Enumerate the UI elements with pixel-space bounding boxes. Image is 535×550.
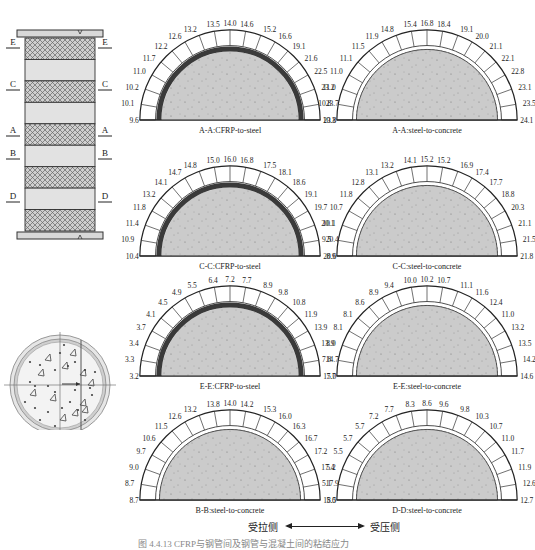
stress-value-label: 11.7 bbox=[511, 447, 524, 456]
stress-value-label: 11.9 bbox=[366, 32, 379, 41]
stress-value-label: 10.3 bbox=[323, 116, 336, 125]
stress-value-label: 16.8 bbox=[240, 156, 253, 165]
stress-value-label: 5.7 bbox=[355, 422, 365, 431]
stress-value-label: 17.7 bbox=[489, 178, 502, 187]
legend: 受拉侧 受压侧 bbox=[0, 518, 535, 534]
panel-title: A-A:CFRP-to-steel bbox=[199, 126, 262, 135]
stress-value-label: 14.0 bbox=[223, 399, 236, 408]
stress-value-label: 10.3 bbox=[476, 412, 489, 421]
stress-value-label: 3.4 bbox=[129, 339, 139, 348]
stress-value-label: 8.3 bbox=[405, 400, 415, 409]
stress-value-label: 11.1 bbox=[340, 54, 353, 63]
stress-value-label: 11.4 bbox=[126, 219, 139, 228]
stress-value-label: 8.7 bbox=[129, 496, 139, 505]
stress-value-label: 8.9 bbox=[263, 281, 273, 290]
stress-value-label: 13.5 bbox=[207, 20, 220, 29]
stress-value-label: 22.1 bbox=[501, 54, 514, 63]
stress-value-label: 14.1 bbox=[154, 178, 167, 187]
panel-BB-steel: 8.78.79.09.710.611.512.613.213.814.014.2… bbox=[125, 399, 339, 515]
stress-value-label: 12.6 bbox=[168, 32, 181, 41]
stress-value-label: 9.6 bbox=[129, 116, 139, 125]
stress-value-label: 18.8 bbox=[501, 190, 514, 199]
stress-value-label: 12.8 bbox=[351, 178, 364, 187]
stress-value-label: 22.8 bbox=[511, 67, 524, 76]
stress-value-label: 19.1 bbox=[304, 190, 317, 199]
panel-DD-steel: 5.05.15.25.55.75.77.27.78.38.69.69.810.3… bbox=[322, 399, 535, 515]
stress-value-label: 10.1 bbox=[121, 99, 134, 108]
panel-CC-steel: 8.99.510.110.711.812.813.113.214.115.215… bbox=[322, 155, 535, 271]
stress-value-label: 5.0 bbox=[326, 496, 336, 505]
stress-value-label: 11.8 bbox=[340, 190, 353, 199]
stress-value-label: 5.5 bbox=[187, 281, 197, 290]
stress-value-label: 10.7 bbox=[330, 203, 343, 212]
stress-value-label: 10.0 bbox=[404, 276, 417, 285]
stress-value-label: 9.8 bbox=[279, 288, 289, 297]
stress-value-label: 4.1 bbox=[146, 310, 156, 319]
stress-value-label: 13.1 bbox=[365, 168, 378, 177]
stress-value-label: 11.0 bbox=[323, 83, 336, 92]
stress-value-label: 9.4 bbox=[384, 281, 394, 290]
stress-value-label: 23.5 bbox=[523, 99, 535, 108]
stress-value-label: 16.0 bbox=[223, 155, 236, 164]
panel-title: D-D:steel-to-concrete bbox=[392, 506, 462, 515]
stress-value-label: 8.1 bbox=[333, 323, 343, 332]
stress-value-label: 15.2 bbox=[437, 156, 450, 165]
stress-value-label: 13.9 bbox=[314, 323, 327, 332]
stress-value-label: 14.2 bbox=[523, 355, 535, 364]
stress-value-label: 13.2 bbox=[184, 25, 197, 34]
stress-value-label: 10.2 bbox=[420, 275, 433, 284]
stress-value-label: 11.0 bbox=[133, 67, 146, 76]
stress-value-label: 5.7 bbox=[343, 434, 353, 443]
stress-value-label: 16.8 bbox=[420, 19, 433, 28]
stress-value-label: 20.0 bbox=[476, 32, 489, 41]
stress-value-label: 9.5 bbox=[322, 235, 332, 244]
figure-caption: 图 4.4.13 CFRP与钢管间及钢管与混凝土间的粘结应力 bbox=[138, 537, 349, 550]
stress-value-label: 17.5 bbox=[263, 161, 276, 170]
stress-value-label: 19.1 bbox=[460, 25, 473, 34]
stress-value-label: 21.8 bbox=[520, 252, 533, 261]
stress-value-label: 6.4 bbox=[208, 276, 218, 285]
stress-value-label: 13.5 bbox=[518, 339, 531, 348]
stress-value-label: 14.6 bbox=[240, 20, 253, 29]
stress-value-label: 14.7 bbox=[168, 168, 181, 177]
stress-value-label: 8.6 bbox=[355, 298, 365, 307]
stress-value-label: 10.9 bbox=[121, 235, 134, 244]
stress-value-label: 4.9 bbox=[172, 288, 182, 297]
stress-value-label: 5.5 bbox=[333, 447, 343, 456]
stress-value-label: 5.2 bbox=[326, 463, 336, 472]
stress-value-label: 9.6 bbox=[439, 400, 449, 409]
stress-value-label: 16.0 bbox=[279, 412, 292, 421]
stress-value-label: 12.6 bbox=[168, 412, 181, 421]
stress-value-label: 23.1 bbox=[518, 83, 531, 92]
stress-value-label: 13.2 bbox=[381, 161, 394, 170]
stress-value-label: 10.8 bbox=[292, 298, 305, 307]
panel-title: C-C:steel-to-concrete bbox=[393, 262, 462, 271]
panel-title: C-C:CFRP-to-steel bbox=[199, 262, 261, 271]
stress-value-label: 12.4 bbox=[489, 298, 502, 307]
panel-EE-steel: 7.77.88.08.18.18.68.99.410.010.210.711.1… bbox=[322, 275, 535, 391]
panel-AA-steel: 10.310.811.011.011.111.511.914.815.416.8… bbox=[318, 19, 535, 135]
stress-value-label: 9.7 bbox=[136, 447, 146, 456]
panel-title: A-A:steel-to-concrete bbox=[392, 126, 462, 135]
stress-value-label: 8.9 bbox=[369, 288, 379, 297]
stress-value-label: 14.2 bbox=[240, 400, 253, 409]
stress-value-label: 7.7 bbox=[326, 372, 336, 381]
stress-value-label: 11.0 bbox=[501, 310, 514, 319]
stress-value-label: 12.7 bbox=[520, 496, 533, 505]
stress-value-label: 14.8 bbox=[184, 161, 197, 170]
stress-value-label: 16.9 bbox=[460, 161, 473, 170]
stress-value-label: 17.2 bbox=[314, 447, 327, 456]
stress-value-label: 11.5 bbox=[155, 422, 168, 431]
stress-value-label: 7.8 bbox=[322, 355, 332, 364]
stress-value-label: 19.1 bbox=[292, 42, 305, 51]
stress-value-label: 11.1 bbox=[460, 281, 473, 290]
stress-value-label: 14.6 bbox=[520, 372, 533, 381]
stress-value-label: 9.8 bbox=[460, 405, 470, 414]
stress-value-label: 8.6 bbox=[422, 399, 432, 408]
stress-value-label: 7.7 bbox=[384, 405, 394, 414]
stress-value-label: 13.2 bbox=[511, 323, 524, 332]
stress-value-label: 21.6 bbox=[304, 54, 317, 63]
stress-value-label: 8.1 bbox=[343, 310, 353, 319]
stress-value-label: 7.2 bbox=[369, 412, 379, 421]
stress-value-label: 19.7 bbox=[314, 203, 327, 212]
